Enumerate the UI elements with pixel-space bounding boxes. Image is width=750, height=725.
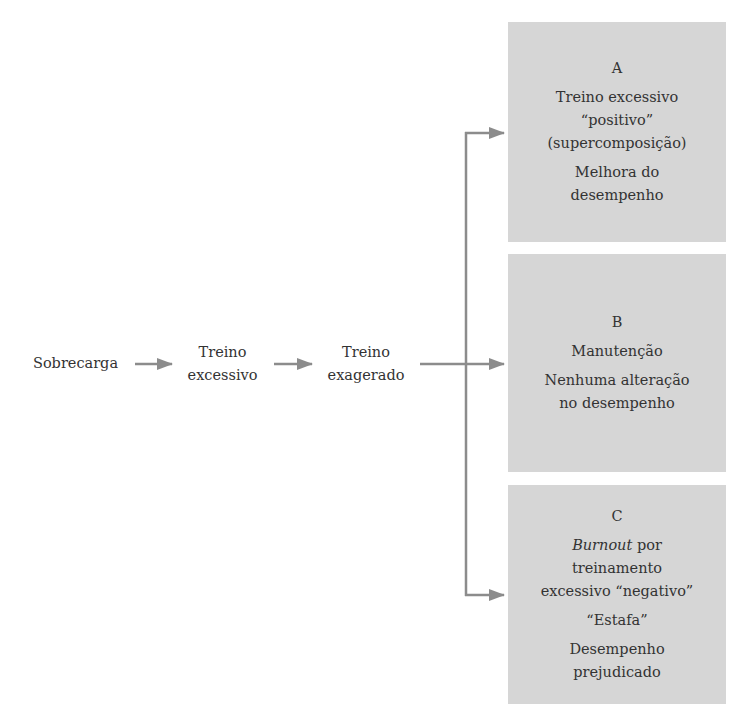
outcome-box-b: B Manutenção Nenhuma alteração no desemp… (508, 254, 726, 472)
outcome-a-title-line-2: “positivo” (547, 109, 686, 132)
outcome-b-result: Nenhuma alteração no desempenho (544, 369, 689, 415)
node-treino-exagerado-line-2: exagerado (316, 364, 416, 387)
outcome-c-title-line-3: excessivo “negativo” (541, 580, 694, 603)
outcome-c-alias: “Estafa” (586, 609, 647, 632)
node-sobrecarga-label: Sobrecarga (33, 355, 118, 371)
outcome-box-a: A Treino excessivo “positivo” (supercomp… (508, 22, 726, 242)
node-treino-exagerado: Treino exagerado (316, 341, 416, 387)
outcome-c-result: Desempenho prejudicado (569, 638, 664, 684)
outcome-c-title-line-1: Burnout por (541, 534, 694, 557)
outcome-c-burnout-italic: Burnout (572, 537, 632, 553)
outcome-c-result-line-2: prejudicado (569, 661, 664, 684)
outcome-a-result: Melhora do desempenho (571, 161, 664, 207)
outcome-a-letter: A (612, 57, 622, 80)
outcome-a-result-line-2: desempenho (571, 184, 664, 207)
outcome-box-c: C Burnout por treinamento excessivo “neg… (508, 485, 726, 704)
node-treino-excessivo-line-1: Treino (175, 341, 270, 364)
outcome-a-result-line-1: Melhora do (571, 161, 664, 184)
outcome-b-letter: B (612, 311, 623, 334)
outcome-b-title-line-1: Manutenção (571, 340, 662, 363)
outcome-a-title-line-1: Treino excessivo (547, 86, 686, 109)
outcome-b-result-line-1: Nenhuma alteração (544, 369, 689, 392)
outcome-a-title: Treino excessivo “positivo” (supercompos… (547, 86, 686, 155)
node-treino-excessivo: Treino excessivo (175, 341, 270, 387)
outcome-c-title-line-2: treinamento (541, 557, 694, 580)
outcome-c-result-line-1: Desempenho (569, 638, 664, 661)
outcome-b-result-line-2: no desempenho (544, 392, 689, 415)
node-sobrecarga: Sobrecarga (18, 352, 133, 375)
outcome-b-title: Manutenção (571, 340, 662, 363)
node-treino-excessivo-line-2: excessivo (175, 364, 270, 387)
outcome-c-title-rest: por (632, 537, 662, 553)
node-treino-exagerado-line-1: Treino (316, 341, 416, 364)
outcome-a-title-line-3: (supercomposição) (547, 132, 686, 155)
outcome-c-letter: C (611, 505, 622, 528)
outcome-c-title: Burnout por treinamento excessivo “negat… (541, 534, 694, 603)
